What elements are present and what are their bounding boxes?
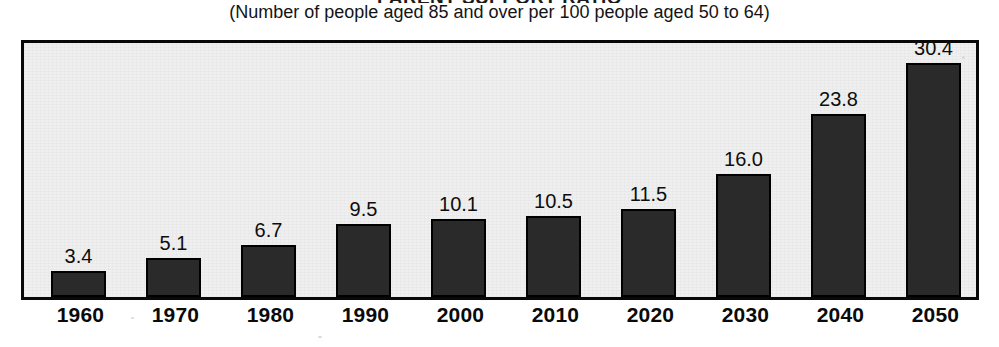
bar-value-label: 10.5: [511, 190, 596, 213]
bar[interactable]: [241, 245, 296, 297]
bar[interactable]: [621, 209, 676, 298]
bar-group: 9.5: [321, 43, 416, 297]
bar[interactable]: [811, 114, 866, 297]
x-tick-label: 2040: [793, 303, 888, 327]
bar[interactable]: [716, 174, 771, 297]
bar-group: 10.1: [416, 43, 511, 297]
bar-value-label: 23.8: [796, 88, 881, 111]
bars-container: 3.45.16.79.510.110.511.516.023.830.4: [24, 43, 976, 297]
bar[interactable]: [336, 224, 391, 297]
bar[interactable]: [146, 258, 201, 297]
bar-group: 5.1: [131, 43, 226, 297]
x-tick-label: 1990: [318, 303, 413, 327]
bar-group: 6.7: [226, 43, 321, 297]
chart-figure: PARENT SUPPORT RATIO (Number of people a…: [0, 0, 999, 347]
bar[interactable]: [431, 219, 486, 297]
x-tick-label: 2050: [888, 303, 983, 327]
bar-group: 23.8: [796, 43, 891, 297]
bar-group: 3.4: [36, 43, 131, 297]
bar-group: 10.5: [511, 43, 606, 297]
bar-value-label: 6.7: [226, 219, 311, 242]
bar-group: 16.0: [701, 43, 796, 297]
bar[interactable]: [906, 63, 961, 297]
x-tick-label: 2000: [413, 303, 508, 327]
scan-speckle: [131, 317, 134, 319]
x-tick-label: 2010: [508, 303, 603, 327]
bar-group: 11.5: [606, 43, 701, 297]
scan-speckle: [318, 336, 322, 338]
bar[interactable]: [526, 216, 581, 297]
bar-value-label: 9.5: [321, 198, 406, 221]
chart-subtitle: (Number of people aged 85 and over per 1…: [0, 2, 999, 23]
x-tick-label: 1980: [223, 303, 318, 327]
bar-value-label: 16.0: [701, 148, 786, 171]
x-tick-label: 1960: [33, 303, 128, 327]
x-tick-label: 1970: [128, 303, 223, 327]
bar-group: 30.4: [891, 43, 986, 297]
plot-area: 3.45.16.79.510.110.511.516.023.830.4: [21, 40, 979, 300]
bar-value-label: 10.1: [416, 193, 501, 216]
bar-value-label: 5.1: [131, 232, 216, 255]
bar-value-label: 3.4: [36, 245, 121, 268]
x-tick-label: 2020: [603, 303, 698, 327]
bar-value-label: 11.5: [606, 183, 691, 206]
x-tick-label: 2030: [698, 303, 793, 327]
x-axis-tick-labels: 1960197019801990200020102020203020402050: [21, 303, 979, 333]
scan-speckle: [962, 56, 965, 59]
bar[interactable]: [51, 271, 106, 297]
